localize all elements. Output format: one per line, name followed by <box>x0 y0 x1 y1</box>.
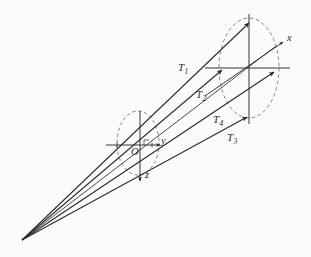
perspective-ray-diagram: T1 T2 T4 T3 x y z O <box>0 0 311 257</box>
ray-T1 <box>22 23 249 240</box>
ray-optical-axis <box>22 46 276 240</box>
ray-label-T1-sub: 1 <box>184 67 188 76</box>
ray-label-T4: T4 <box>213 114 223 125</box>
ray-T2 <box>22 70 222 240</box>
right-coordinate-frame <box>205 14 290 124</box>
origin-label: O <box>131 147 139 158</box>
ray-bundle <box>22 23 276 240</box>
ray-T3 <box>22 72 274 240</box>
ray-T4 <box>22 117 247 240</box>
ray-label-T1: T1 <box>178 62 188 73</box>
ray-label-T2-sub: 2 <box>202 94 206 103</box>
x-axis-label: x <box>287 33 292 44</box>
z-axis-label: z <box>145 170 149 181</box>
ray-label-T4-sub: 4 <box>219 119 223 128</box>
ray-label-T3-sub: 3 <box>233 137 237 146</box>
diagram-canvas <box>0 0 311 257</box>
origin-right-angle-mark <box>144 140 149 145</box>
ray-label-T3: T3 <box>227 132 237 143</box>
y-axis-label: y <box>161 136 166 147</box>
ray-label-T2: T2 <box>196 89 206 100</box>
